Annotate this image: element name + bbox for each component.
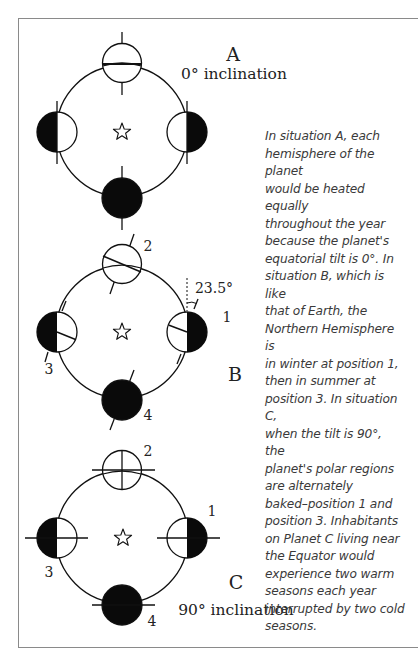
- planet-b-position-4: [102, 370, 142, 430]
- position-1-label: 1: [223, 309, 232, 325]
- star-icon: [113, 323, 130, 339]
- star-icon: [114, 529, 131, 545]
- star-icon: [113, 123, 130, 139]
- tilt-annotation: 23.5°: [195, 280, 233, 296]
- planet-c-position-1: [157, 518, 220, 558]
- planet-c-position-3: [25, 518, 88, 558]
- planet-b-position-2: [103, 234, 142, 294]
- position-4-label: 4: [148, 613, 157, 629]
- planet-a-right: [167, 101, 207, 164]
- position-1-label: 1: [208, 503, 217, 519]
- situation-a-diagram: A 0° inclination: [37, 32, 287, 230]
- position-3-label: 3: [45, 564, 54, 580]
- planet-a-top: [103, 32, 142, 95]
- position-2-label: 2: [144, 443, 153, 459]
- situation-b-label: B: [228, 363, 242, 385]
- planet-a-left: [37, 101, 77, 164]
- situation-b-diagram: 2 23.5° 1 3 4 B: [37, 234, 242, 430]
- situation-c-label: C: [229, 571, 244, 593]
- planet-a-bottom: [102, 166, 142, 230]
- position-3-label: 3: [45, 361, 54, 377]
- figure-caption: In situation A, each hemisphere of the p…: [265, 128, 405, 636]
- situation-c-diagram: 2 1 3 4 C 90° inclination: [25, 443, 294, 629]
- planet-c-position-4: [92, 585, 155, 625]
- planet-b-position-3: [37, 301, 77, 362]
- position-2-label: 2: [144, 238, 153, 254]
- position-4-label: 4: [144, 407, 153, 423]
- situation-a-label: A: [225, 43, 240, 65]
- situation-a-inclination: 0° inclination: [181, 65, 287, 83]
